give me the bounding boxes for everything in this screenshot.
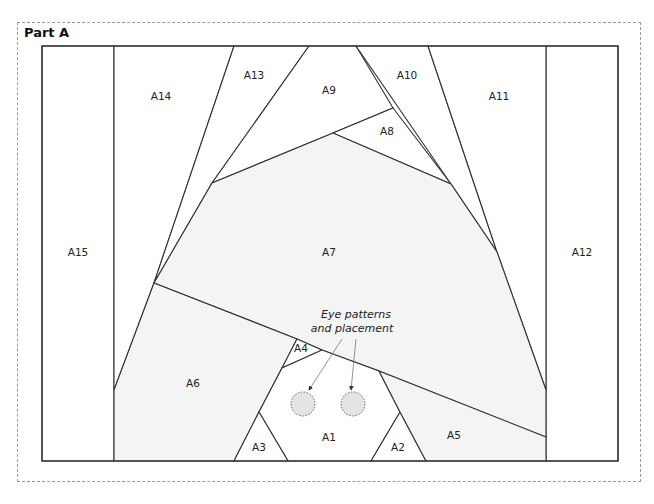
label-A8: A8: [380, 125, 394, 137]
paper-piecing-pattern: Eye patterns and placement A1 A2 A3 A4 A…: [0, 0, 654, 504]
annotation-line-1: Eye patterns: [321, 308, 391, 321]
label-A1: A1: [322, 431, 336, 443]
annotation-line-2: and placement: [311, 322, 394, 335]
label-A12: A12: [572, 246, 593, 258]
label-A14: A14: [151, 90, 172, 102]
label-A5: A5: [447, 429, 461, 441]
label-A10: A10: [397, 69, 418, 81]
label-A4: A4: [294, 342, 308, 354]
right-eye-marker: [341, 392, 365, 416]
label-A11: A11: [489, 90, 510, 102]
label-A13: A13: [244, 69, 265, 81]
label-A6: A6: [186, 377, 200, 389]
label-A7: A7: [322, 246, 336, 258]
label-A2: A2: [391, 441, 405, 453]
label-A9: A9: [322, 84, 336, 96]
label-A3: A3: [252, 441, 266, 453]
label-A15: A15: [68, 246, 89, 258]
left-eye-marker: [291, 392, 315, 416]
